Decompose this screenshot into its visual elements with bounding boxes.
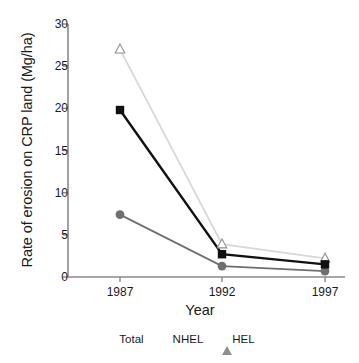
square-marker-icon <box>104 334 115 345</box>
legend-item-total[interactable]: Total <box>104 333 143 345</box>
circle-marker-icon <box>158 334 169 345</box>
legend-label: Total <box>119 333 143 345</box>
x-axis-title: Year <box>60 302 340 318</box>
x-tick-label: 1997 <box>295 285 355 299</box>
legend-item-nhel[interactable]: NHEL <box>158 333 204 345</box>
triangle-glyph <box>222 334 232 355</box>
legend-label: HEL <box>232 333 254 345</box>
legend-item-hel[interactable]: HEL <box>217 333 254 345</box>
chart-legend: TotalNHELHEL <box>0 333 359 345</box>
triangle-marker-icon <box>217 334 228 345</box>
erosion-line-chart: Rate of erosion on CRP land (Mg/ha) 0510… <box>0 0 359 363</box>
x-tick-label: 1992 <box>192 285 252 299</box>
legend-label: NHEL <box>173 333 204 345</box>
x-tick-label: 1987 <box>90 285 150 299</box>
